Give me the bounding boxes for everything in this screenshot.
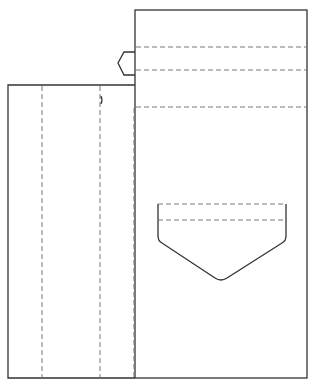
- pattern-diagram: [0, 0, 316, 386]
- horizontal-fold-lines: [136, 47, 306, 107]
- pocket: [158, 204, 286, 280]
- back-panel: [135, 10, 307, 378]
- vertical-fold-lines: [42, 86, 134, 377]
- front-panel: [8, 85, 135, 378]
- side-tab: [118, 52, 135, 75]
- slit-mark: [101, 96, 102, 104]
